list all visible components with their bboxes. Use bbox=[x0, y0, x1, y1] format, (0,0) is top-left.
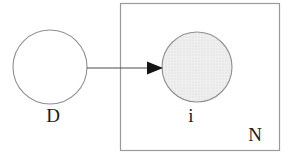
plate-notation-diagram: D i N bbox=[0, 0, 301, 157]
node-label-i: i bbox=[188, 105, 193, 126]
node-circle-D bbox=[13, 30, 87, 104]
diagram-canvas: D i N bbox=[0, 0, 301, 157]
plate-label-N: N bbox=[248, 124, 262, 145]
node-label-D: D bbox=[46, 105, 60, 126]
node-circle-i bbox=[162, 32, 232, 102]
arrowhead-icon bbox=[147, 62, 163, 75]
